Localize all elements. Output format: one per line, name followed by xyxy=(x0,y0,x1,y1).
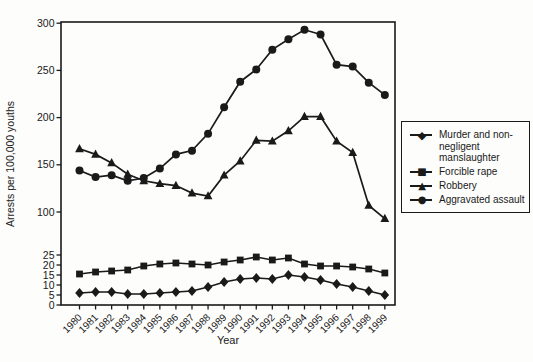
figure: 0510152025100150200250300198019811982198… xyxy=(0,0,533,362)
data-point-forcible-rape xyxy=(221,259,228,266)
data-point-aggravated-assault xyxy=(333,61,341,69)
data-point-aggravated-assault xyxy=(252,65,260,73)
data-point-aggravated-assault xyxy=(220,103,228,111)
data-point-murder-and-non-negligent-manslaughter xyxy=(236,274,245,284)
data-point-aggravated-assault xyxy=(108,171,116,179)
data-point-robbery xyxy=(364,201,373,209)
data-point-forcible-rape xyxy=(140,263,147,270)
legend-label-rape: Forcible rape xyxy=(439,166,497,178)
data-point-forcible-rape xyxy=(124,267,131,274)
legend-item-assault: ● Aggravated assault xyxy=(410,194,525,206)
y-tick-label: 150 xyxy=(37,158,55,170)
legend-item-robbery: ▲ Robbery xyxy=(410,180,525,192)
data-point-robbery xyxy=(348,148,357,156)
data-point-murder-and-non-negligent-manslaughter xyxy=(381,290,390,300)
data-point-aggravated-assault xyxy=(300,26,308,34)
data-point-forcible-rape xyxy=(381,270,388,277)
legend-item-murder: ◆ Murder and non-negligent manslaughter xyxy=(410,129,525,164)
data-point-murder-and-non-negligent-manslaughter xyxy=(172,287,181,297)
data-point-aggravated-assault xyxy=(284,35,292,43)
data-point-aggravated-assault xyxy=(172,150,180,158)
data-point-aggravated-assault xyxy=(140,174,148,182)
square-marker-icon: ■ xyxy=(410,166,434,178)
data-point-forcible-rape xyxy=(269,257,276,264)
circle-glyph: ● xyxy=(418,195,427,205)
data-point-aggravated-assault xyxy=(365,79,373,87)
data-point-murder-and-non-negligent-manslaughter xyxy=(75,288,84,298)
data-point-forcible-rape xyxy=(317,263,324,270)
data-point-forcible-rape xyxy=(205,262,212,269)
x-axis-title: Year xyxy=(217,334,240,346)
data-point-forcible-rape xyxy=(349,264,356,271)
data-point-murder-and-non-negligent-manslaughter xyxy=(268,274,277,284)
data-point-murder-and-non-negligent-manslaughter xyxy=(348,282,357,292)
data-point-forcible-rape xyxy=(333,263,340,270)
data-point-forcible-rape xyxy=(189,261,196,268)
data-point-forcible-rape xyxy=(108,268,115,275)
data-point-murder-and-non-negligent-manslaughter xyxy=(332,279,341,289)
y-tick-label: 250 xyxy=(37,64,55,76)
circle-marker-icon: ● xyxy=(410,194,434,206)
data-point-murder-and-non-negligent-manslaughter xyxy=(123,289,132,299)
data-point-murder-and-non-negligent-manslaughter xyxy=(300,272,309,282)
square-glyph: ■ xyxy=(417,167,426,177)
legend-label-assault: Aggravated assault xyxy=(439,194,525,206)
triangle-marker-icon: ▲ xyxy=(410,180,434,192)
data-point-forcible-rape xyxy=(76,271,83,278)
data-point-forcible-rape xyxy=(285,255,292,262)
data-point-robbery xyxy=(123,169,132,177)
data-point-murder-and-non-negligent-manslaughter xyxy=(156,288,165,298)
data-point-murder-and-non-negligent-manslaughter xyxy=(220,277,229,287)
y-tick-label: 100 xyxy=(37,206,55,218)
data-point-aggravated-assault xyxy=(188,147,196,155)
data-point-murder-and-non-negligent-manslaughter xyxy=(91,287,100,297)
data-point-murder-and-non-negligent-manslaughter xyxy=(204,282,213,292)
data-point-murder-and-non-negligent-manslaughter xyxy=(107,287,116,297)
data-point-aggravated-assault xyxy=(156,165,164,173)
data-point-forcible-rape xyxy=(173,260,180,267)
data-point-forcible-rape xyxy=(156,261,163,268)
data-point-aggravated-assault xyxy=(92,173,100,181)
x-tick-label: 1999 xyxy=(366,311,390,335)
data-point-aggravated-assault xyxy=(76,166,84,174)
data-point-forcible-rape xyxy=(92,269,99,276)
data-point-murder-and-non-negligent-manslaughter xyxy=(364,286,373,296)
data-point-robbery xyxy=(252,135,261,143)
data-point-aggravated-assault xyxy=(124,177,132,185)
series-line-robbery xyxy=(80,117,385,219)
data-point-murder-and-non-negligent-manslaughter xyxy=(188,286,197,296)
data-point-murder-and-non-negligent-manslaughter xyxy=(139,289,148,299)
data-point-aggravated-assault xyxy=(381,91,389,99)
data-point-forcible-rape xyxy=(237,257,244,264)
data-point-murder-and-non-negligent-manslaughter xyxy=(252,273,261,283)
series-line-aggravated-assault xyxy=(80,30,385,181)
data-point-robbery xyxy=(75,144,84,152)
data-point-murder-and-non-negligent-manslaughter xyxy=(316,275,325,285)
data-point-forcible-rape xyxy=(301,261,308,268)
data-point-aggravated-assault xyxy=(317,31,325,39)
legend-label-murder: Murder and non-negligent manslaughter xyxy=(439,129,525,164)
y-tick-label: 200 xyxy=(37,111,55,123)
legend-label-robbery: Robbery xyxy=(439,180,477,192)
data-point-aggravated-assault xyxy=(268,46,276,54)
diamond-marker-icon: ◆ xyxy=(410,129,434,141)
data-point-forcible-rape xyxy=(365,266,372,273)
diamond-glyph: ◆ xyxy=(418,130,426,141)
data-point-murder-and-non-negligent-manslaughter xyxy=(284,270,293,280)
data-point-forcible-rape xyxy=(253,254,260,261)
triangle-glyph: ▲ xyxy=(418,181,426,191)
legend: ◆ Murder and non-negligent manslaughter … xyxy=(401,121,530,213)
data-point-aggravated-assault xyxy=(349,63,357,71)
data-point-aggravated-assault xyxy=(204,130,212,138)
data-point-aggravated-assault xyxy=(236,78,244,86)
legend-item-rape: ■ Forcible rape xyxy=(410,166,525,178)
y-tick-label: 25 xyxy=(43,249,55,261)
y-axis-title: Arrests per 100,000 youths xyxy=(4,101,16,227)
y-tick-label: 300 xyxy=(37,17,55,29)
